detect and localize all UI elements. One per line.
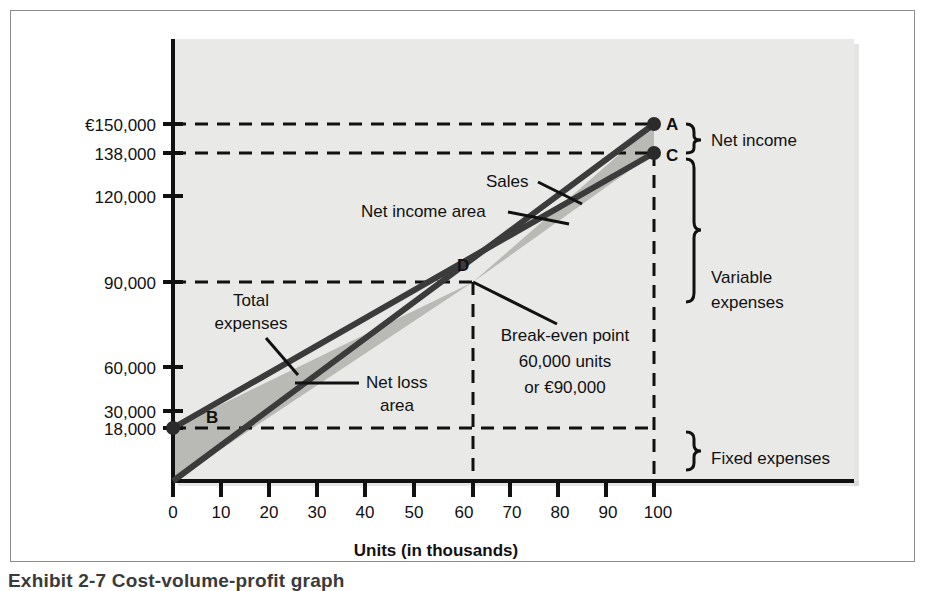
data-point-c (647, 146, 661, 160)
y-tick-label-150000: €150,000 (85, 116, 156, 135)
x-tick-label-10: 10 (212, 503, 231, 522)
total-expenses-label-line1: Total (233, 291, 269, 310)
x-tick-label-30: 30 (308, 503, 327, 522)
net-income-bracket-label: Net income (711, 131, 797, 150)
y-tick-label-90000: 90,000 (104, 274, 156, 293)
total-expenses-label-line2: expenses (215, 314, 288, 333)
panel-shadow-right (854, 44, 859, 486)
data-point-a (647, 117, 661, 131)
x-tick-label-0: 0 (168, 503, 177, 522)
x-tick-label-70: 70 (503, 503, 522, 522)
y-tick-label-60000: 60,000 (104, 359, 156, 378)
net-loss-area-label-line2: area (380, 396, 415, 415)
x-tick-label-40: 40 (356, 503, 375, 522)
break-even-label-line2: 60,000 units (519, 352, 612, 371)
x-tick-label-50: 50 (405, 503, 424, 522)
cost-volume-profit-chart: €150,000 138,000 120,000 90,000 60,000 3… (11, 11, 916, 563)
data-point-b (166, 421, 180, 435)
net-income-area-label: Net income area (361, 202, 486, 221)
y-tick-label-120000: 120,000 (95, 188, 156, 207)
x-axis-title: Units (in thousands) (354, 541, 518, 560)
net-loss-area-label-line1: Net loss (366, 373, 427, 392)
point-label-b: B (206, 408, 218, 427)
point-label-d: D (457, 256, 469, 275)
fixed-expenses-bracket-label: Fixed expenses (711, 449, 830, 468)
variable-expenses-bracket-label-line1: Variable (711, 268, 772, 287)
figure-caption: Exhibit 2-7 Cost-volume-profit graph (8, 570, 938, 591)
point-label-a: A (666, 115, 678, 134)
x-tick-label-100: 100 (644, 503, 672, 522)
variable-expenses-bracket-label-line2: expenses (711, 293, 784, 312)
y-tick-label-138000: 138,000 (95, 145, 156, 164)
figure-frame: €150,000 138,000 120,000 90,000 60,000 3… (10, 10, 915, 562)
y-tick-label-18000: 18,000 (104, 420, 156, 439)
x-tick-label-80: 80 (551, 503, 570, 522)
sales-label: Sales (486, 172, 529, 191)
break-even-label-line1: Break-even point (501, 326, 630, 345)
x-tick-label-60: 60 (455, 503, 474, 522)
break-even-label-line3: or €90,000 (524, 378, 605, 397)
x-tick-label-90: 90 (599, 503, 618, 522)
point-label-c: C (666, 146, 678, 165)
x-tick-label-20: 20 (260, 503, 279, 522)
plot-panel (173, 39, 854, 481)
